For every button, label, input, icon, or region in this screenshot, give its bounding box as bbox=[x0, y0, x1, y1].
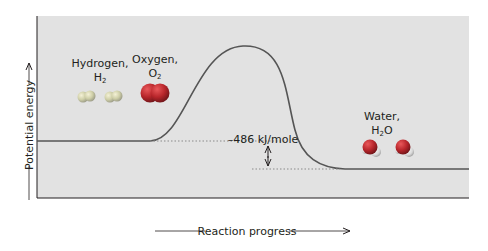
oxygen-label: Oxygen, bbox=[132, 53, 178, 66]
oxygen-molecule-icon bbox=[141, 84, 170, 103]
energy-change-label: –486 kJ/mole bbox=[228, 133, 299, 146]
water-label: Water, bbox=[364, 110, 400, 123]
energy-diagram: Hydrogen, H2 Oxygen, O2 Water, H2O –486 … bbox=[0, 0, 488, 251]
y-axis-label: Potential energy bbox=[23, 80, 36, 171]
x-axis-label: Reaction progress bbox=[198, 225, 297, 238]
plot-area-lower bbox=[37, 16, 469, 198]
hydrogen-molecule-icon bbox=[78, 91, 96, 103]
hydrogen-label: Hydrogen, bbox=[72, 57, 129, 70]
hydrogen-molecule-icon bbox=[105, 91, 123, 103]
